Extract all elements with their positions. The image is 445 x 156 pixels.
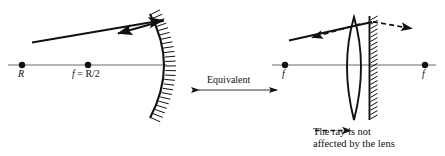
ray-note-line-1: The ray is not: [313, 126, 395, 137]
ray-note-caption: The ray is not affected by the lens: [313, 126, 395, 149]
right-panel-group: [272, 16, 436, 120]
incident-ray-left: [32, 20, 163, 42]
optics-figure: R f = R/2 Equivalent f f The ray is not …: [0, 0, 445, 156]
label-focal-right-left: f: [282, 69, 285, 80]
label-focal-equals-r-over-2: = R/2: [75, 68, 100, 79]
converging-lens: [347, 17, 361, 120]
plane-mirror-hatching: [371, 16, 378, 119]
unaffected-ray-dashed-right: [373, 22, 412, 29]
equivalent-label: Equivalent: [207, 75, 250, 86]
label-focal-length-left: f = R/2: [72, 69, 100, 80]
label-center-of-curvature: R: [18, 69, 24, 80]
label-focal-right-right: f: [422, 69, 425, 80]
dashed-ray-glyph-icon: [314, 126, 354, 135]
ray-note-line-2: affected by the lens: [313, 138, 395, 149]
left-panel-group: [8, 10, 176, 122]
